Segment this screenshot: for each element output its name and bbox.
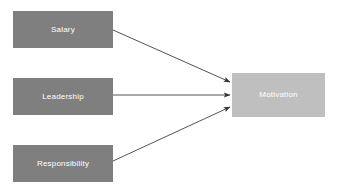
path-diagram-canvas: Salary Leadership Responsibility Motivat…: [0, 0, 337, 191]
node-salary-label: Salary: [51, 26, 75, 34]
node-responsibility[interactable]: Responsibility: [13, 145, 113, 182]
node-motivation-label: Motivation: [259, 91, 297, 99]
edge-responsibility-to-motivation: [113, 107, 230, 161]
node-salary[interactable]: Salary: [13, 11, 113, 48]
node-responsibility-label: Responsibility: [37, 160, 89, 168]
node-motivation[interactable]: Motivation: [232, 73, 325, 117]
node-leadership-label: Leadership: [42, 93, 84, 101]
node-leadership[interactable]: Leadership: [13, 78, 113, 115]
edge-salary-to-motivation: [113, 30, 230, 82]
